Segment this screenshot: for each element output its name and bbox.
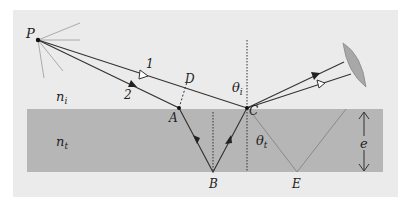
point-p-dot [36,38,40,42]
label-e: E [291,177,301,191]
label-thickness: e [360,136,368,151]
label-b: B [208,177,218,191]
label-p: P [25,26,35,41]
label-ray-1: 1 [146,57,154,71]
label-c: C [249,104,258,118]
point-a-dot [177,106,181,110]
label-ray-2: 2 [123,88,132,102]
film-slab [27,109,383,172]
label-d: D [184,72,195,86]
thin-film-interference-diagram: P 1 2 D A C B E e ni nt θi θt [0,0,410,207]
label-a: A [168,111,178,125]
